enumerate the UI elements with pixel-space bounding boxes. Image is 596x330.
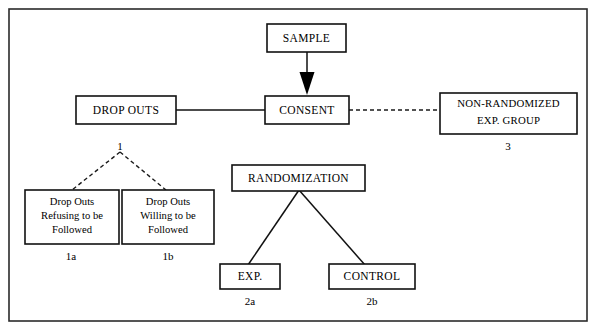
node-drop-refusing-line1: Drop Outs — [50, 196, 94, 207]
node-drop-outs-label: DROP OUTS — [93, 104, 159, 116]
node-consent[interactable]: CONSENT — [265, 96, 349, 124]
flowchart-canvas: SAMPLE CONSENT DROP OUTS NON-RANDOMIZED … — [0, 0, 596, 330]
node-experimental-label: EXP. — [238, 270, 263, 282]
node-sample[interactable]: SAMPLE — [267, 24, 346, 52]
figure-root: SAMPLE CONSENT DROP OUTS NON-RANDOMIZED … — [0, 0, 596, 330]
node-drop-refusing-line3: Followed — [52, 224, 93, 235]
node-drop-outs[interactable]: DROP OUTS — [76, 96, 176, 124]
tag-control: 2b — [367, 295, 379, 307]
node-sample-label: SAMPLE — [283, 32, 330, 44]
node-drop-outs-willing[interactable]: Drop Outs Willing to be Followed — [122, 190, 214, 244]
node-drop-willing-line2: Willing to be — [140, 210, 196, 221]
node-experimental[interactable]: EXP. — [220, 264, 280, 289]
node-drop-willing-line1: Drop Outs — [146, 196, 190, 207]
tag-drop-outs-branch: 1 — [117, 140, 123, 152]
node-randomization-label: RANDOMIZATION — [248, 172, 349, 184]
node-drop-refusing-line2: Refusing to be — [41, 210, 103, 221]
tag-drop-refusing: 1a — [66, 250, 77, 262]
node-non-randomized-line1: NON-RANDOMIZED — [457, 97, 559, 109]
node-non-randomized-line2: EXP. GROUP — [477, 114, 540, 126]
node-control[interactable]: CONTROL — [329, 264, 415, 289]
node-drop-outs-refusing[interactable]: Drop Outs Refusing to be Followed — [25, 190, 119, 244]
tag-non-randomized: 3 — [505, 140, 511, 152]
tag-drop-willing: 1b — [163, 250, 175, 262]
node-control-label: CONTROL — [344, 270, 401, 282]
node-non-randomized-exp-group[interactable]: NON-RANDOMIZED EXP. GROUP — [440, 93, 577, 134]
node-randomization[interactable]: RANDOMIZATION — [232, 165, 365, 191]
node-consent-label: CONSENT — [279, 104, 334, 116]
tag-experimental: 2a — [245, 295, 256, 307]
node-drop-willing-line3: Followed — [148, 224, 189, 235]
